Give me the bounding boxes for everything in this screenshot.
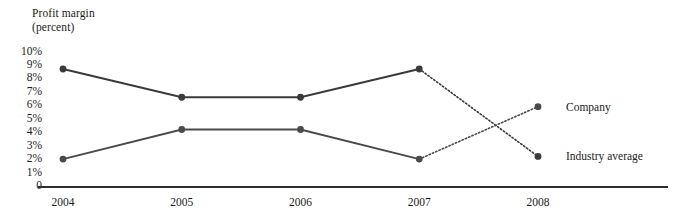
series-line-projected xyxy=(419,107,538,159)
data-point-marker xyxy=(416,66,423,73)
data-point-marker xyxy=(297,126,304,133)
data-point-marker xyxy=(416,156,423,163)
data-point-marker xyxy=(178,94,185,101)
data-point-marker xyxy=(60,66,67,73)
series-label-company: Company xyxy=(566,101,611,113)
x-axis-tick-label: 2007 xyxy=(389,196,449,208)
series-line-projected xyxy=(419,69,538,156)
data-point-marker xyxy=(60,156,67,163)
profit-margin-line-chart: Profit margin (percent) 10%9%8%7%6%5%4%3… xyxy=(0,0,687,221)
x-axis-tick-label: 2004 xyxy=(33,196,93,208)
series-line-solid xyxy=(63,69,419,97)
x-axis-tick-label: 2008 xyxy=(508,196,568,208)
x-axis-tick-label: 2006 xyxy=(271,196,331,208)
data-point-marker xyxy=(535,153,542,160)
data-point-marker xyxy=(535,103,542,110)
x-axis-line xyxy=(38,186,668,188)
x-axis-tick-label: 2005 xyxy=(152,196,212,208)
data-point-marker xyxy=(297,94,304,101)
series-line-solid xyxy=(63,130,419,160)
data-point-marker xyxy=(178,126,185,133)
series-label-industry-average: Industry average xyxy=(566,150,643,162)
